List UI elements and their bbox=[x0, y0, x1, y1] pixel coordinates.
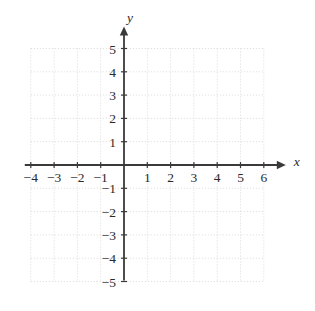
x-tick-label: 1 bbox=[144, 170, 151, 185]
y-tick-label: −1 bbox=[102, 181, 116, 196]
y-tick-label: 1 bbox=[109, 135, 116, 150]
y-tick-label: 4 bbox=[109, 65, 116, 80]
y-tick-label: −3 bbox=[102, 228, 117, 243]
x-tick-label: 3 bbox=[191, 170, 198, 185]
y-tick-label: −4 bbox=[102, 251, 117, 266]
x-axis-arrowhead bbox=[277, 161, 286, 169]
y-tick-label: 3 bbox=[109, 88, 116, 103]
x-tick-label: 2 bbox=[167, 170, 174, 185]
x-tick-label: 6 bbox=[260, 170, 267, 185]
y-tick-label: −5 bbox=[102, 275, 117, 290]
y-tick-label: 5 bbox=[109, 42, 116, 57]
y-tick-label: 2 bbox=[109, 111, 116, 126]
x-tick-labels: −4−3−2−1123456 bbox=[24, 170, 268, 185]
x-tick-label: −2 bbox=[70, 170, 84, 185]
y-tick-label: −2 bbox=[102, 205, 116, 220]
x-axis-name: x bbox=[293, 154, 300, 169]
y-axis-name: y bbox=[125, 10, 133, 25]
x-tick-label: 5 bbox=[237, 170, 244, 185]
x-tick-label: −3 bbox=[47, 170, 62, 185]
y-axis-arrowhead bbox=[120, 27, 128, 36]
x-tick-label: −4 bbox=[24, 170, 39, 185]
axes-group bbox=[25, 27, 286, 281]
coordinate-plane-figure: −4−3−2−1123456 −5−4−3−2−112345 x y bbox=[0, 0, 315, 311]
x-tick-label: 4 bbox=[214, 170, 221, 185]
coordinate-plane-svg: −4−3−2−1123456 −5−4−3−2−112345 x y bbox=[0, 0, 315, 311]
